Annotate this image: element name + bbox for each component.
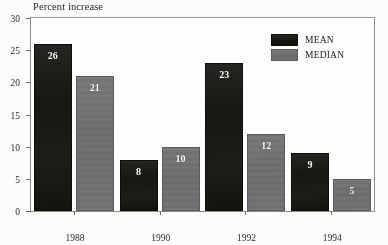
y-axis-tick: 30 bbox=[26, 18, 31, 19]
bar-1988-mean: 26 bbox=[34, 44, 72, 211]
bar-value-label: 8 bbox=[121, 166, 157, 177]
y-axis-tick: 10 bbox=[26, 147, 31, 148]
x-axis-label-1992: 1992 bbox=[237, 233, 256, 243]
bar-1994-median: 5 bbox=[333, 179, 371, 211]
legend-label-median: MEDIAN bbox=[305, 50, 344, 60]
x-axis-tick bbox=[160, 211, 161, 215]
bar-value-label: 5 bbox=[334, 185, 370, 196]
y-axis-tick: 0 bbox=[26, 211, 31, 212]
y-axis-tick: 20 bbox=[26, 82, 31, 83]
bar-value-label: 23 bbox=[206, 69, 242, 80]
bar-value-label: 26 bbox=[35, 50, 71, 61]
x-axis-tick bbox=[331, 211, 332, 215]
y-axis-tick-label: 25 bbox=[11, 46, 21, 56]
y-axis-tick-label: 5 bbox=[15, 175, 20, 185]
bar-1992-median: 12 bbox=[247, 134, 285, 211]
y-axis-tick-label: 30 bbox=[11, 14, 21, 24]
bar-1994-mean: 9 bbox=[291, 153, 329, 211]
bar-1992-mean: 23 bbox=[205, 63, 243, 211]
y-axis-tick-label: 20 bbox=[11, 78, 21, 88]
x-axis-label-1994: 1994 bbox=[323, 233, 342, 243]
bar-1990-median: 10 bbox=[162, 147, 200, 211]
y-axis-tick-label: 10 bbox=[11, 143, 21, 153]
plot-frame: 0510152025302621810231295 MEAN MEDIAN 19… bbox=[30, 17, 375, 212]
bar-value-label: 9 bbox=[292, 159, 328, 170]
x-axis-label-1990: 1990 bbox=[151, 233, 170, 243]
y-axis-tick: 5 bbox=[26, 179, 31, 180]
y-axis-tick-label: 0 bbox=[15, 207, 20, 217]
y-axis-tick-label: 15 bbox=[11, 111, 21, 121]
bar-1990-mean: 8 bbox=[120, 160, 158, 211]
mean-swatch-icon bbox=[271, 34, 298, 46]
median-swatch-icon bbox=[271, 49, 298, 61]
legend-label-mean: MEAN bbox=[305, 35, 334, 45]
x-axis-tick bbox=[245, 211, 246, 215]
bar-value-label: 21 bbox=[77, 82, 113, 93]
bar-1988-median: 21 bbox=[76, 76, 114, 211]
legend-item-mean: MEAN bbox=[271, 34, 344, 46]
x-axis-label-1988: 1988 bbox=[65, 233, 84, 243]
chart-legend: MEAN MEDIAN bbox=[271, 34, 344, 61]
chart-screenshot: Percent increase 05101520253026218102312… bbox=[0, 0, 388, 245]
bar-value-label: 12 bbox=[248, 140, 284, 151]
legend-item-median: MEDIAN bbox=[271, 49, 344, 61]
y-axis-tick: 25 bbox=[26, 50, 31, 51]
bar-value-label: 10 bbox=[163, 153, 199, 164]
y-axis-tick: 15 bbox=[26, 115, 31, 116]
x-axis-tick bbox=[74, 211, 75, 215]
chart-title: Percent increase bbox=[33, 1, 103, 12]
